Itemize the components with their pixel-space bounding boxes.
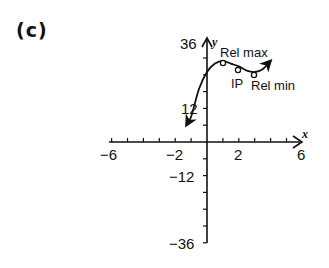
x-tick-label: 2	[234, 146, 242, 163]
x-tick-label: 6	[297, 146, 305, 163]
y-tick-label: 36	[180, 35, 197, 52]
rel-min-label: Rel min	[251, 78, 295, 93]
inflection-point	[235, 67, 240, 72]
x-tick-label: −6	[100, 146, 117, 163]
y-axis-label: y	[210, 35, 218, 49]
ip-label: IP	[231, 76, 243, 91]
rel-max-point	[220, 60, 225, 65]
y-tick-label: −36	[169, 235, 194, 252]
x-axis: −6 −2 2 6 x	[100, 127, 308, 163]
function-graph: −6 −2 2 6 x 36 12 −12 −36 y Rel max IP R…	[0, 0, 329, 268]
rel-max-label: Rel max	[220, 45, 268, 60]
function-curve	[186, 61, 270, 125]
y-tick-label: −12	[169, 168, 194, 185]
rel-min-point	[251, 72, 256, 77]
x-axis-label: x	[301, 127, 308, 141]
x-tick-label: −2	[166, 146, 183, 163]
